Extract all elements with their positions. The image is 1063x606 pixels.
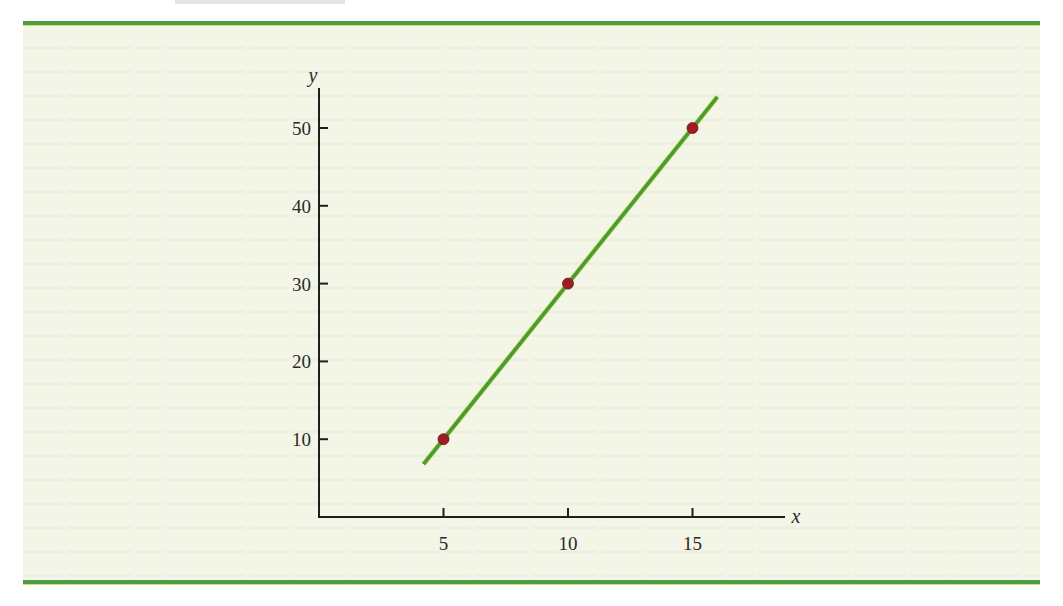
x-ticks: 51015: [439, 508, 702, 554]
x-tick-label: 10: [559, 533, 578, 554]
x-tick-label: 15: [683, 533, 702, 554]
y-tick-label: 10: [292, 429, 311, 450]
y-ticks: 1020304050: [292, 118, 328, 450]
y-tick-label: 30: [292, 274, 311, 295]
data-point: [687, 123, 698, 134]
data-point: [563, 278, 574, 289]
y-tick-label: 20: [292, 351, 311, 372]
x-tick-label: 5: [439, 533, 449, 554]
y-axis-label: y: [307, 64, 318, 87]
figure-page: ▁▁▁ ▁▁▁▁▁ ▁▁ ▁▁▁▁▁▁ ▁▁▁ ▁▁▁▁ ▁▁▁▁▁▁▁ ▁▁ …: [0, 0, 1063, 606]
scatter-chart: 1020304050 51015 y x: [0, 0, 1063, 606]
x-axis-label: x: [791, 505, 801, 527]
y-tick-label: 50: [292, 118, 311, 139]
data-point: [438, 434, 449, 445]
y-tick-label: 40: [292, 196, 311, 217]
